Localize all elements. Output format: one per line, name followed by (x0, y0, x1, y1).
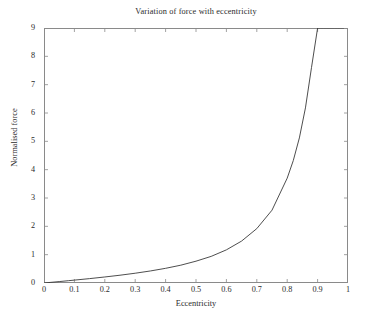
x-tick-label: 0.3 (130, 286, 140, 294)
plot-background (44, 28, 348, 283)
x-tick-label: 0.2 (100, 286, 110, 294)
x-tick-label: 0 (42, 286, 46, 294)
x-tick-label: 0.5 (191, 286, 201, 294)
x-tick-label: 1 (346, 286, 350, 294)
chart-title: Variation of force with eccentricity (44, 7, 348, 16)
x-axis-label: Eccentricity (44, 299, 348, 308)
y-axis-tick-labels: 0123456789 (0, 28, 40, 283)
y-tick-label: 0 (15, 279, 35, 287)
y-tick-label: 8 (15, 52, 35, 60)
x-tick-label: 0.7 (252, 286, 262, 294)
x-tick-label: 0.6 (221, 286, 231, 294)
plot-area (44, 28, 348, 283)
y-tick-label: 2 (15, 222, 35, 230)
x-tick-label: 0.8 (282, 286, 292, 294)
x-tick-label: 0.1 (69, 286, 79, 294)
x-axis-tick-labels: 00.10.20.30.40.50.60.70.80.91 (44, 286, 348, 298)
y-tick-label: 1 (15, 251, 35, 259)
y-tick-label: 9 (15, 24, 35, 32)
plot-svg (44, 28, 348, 283)
chart-figure: Variation of force with eccentricity 012… (0, 0, 372, 324)
y-axis-label: Normalised force (10, 78, 19, 198)
x-tick-label: 0.9 (312, 286, 322, 294)
x-tick-label: 0.4 (160, 286, 170, 294)
